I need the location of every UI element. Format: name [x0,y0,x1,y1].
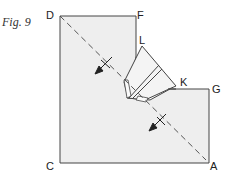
point-label-g: G [212,83,221,95]
point-label-c: C [46,160,54,172]
point-label-f: F [137,9,144,21]
figure-caption: Fig. 9 [1,15,31,29]
point-label-k: K [180,76,188,88]
point-label-l: L [139,34,145,46]
origami-diagram: Fig. 9 D F L K G A C [0,0,227,185]
point-label-a: A [210,160,218,172]
point-label-d: D [46,9,54,21]
